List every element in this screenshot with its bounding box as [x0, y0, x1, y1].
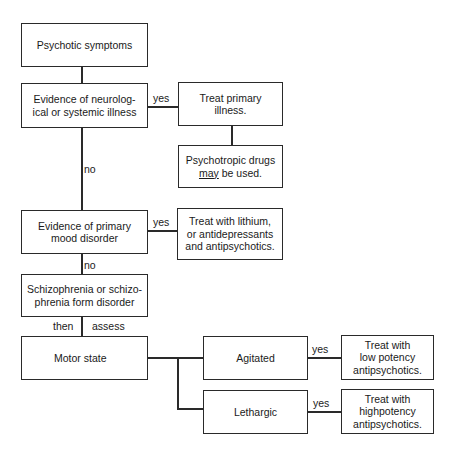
- psychotropic-line1: Psychotropic drugs: [186, 154, 275, 166]
- connector-agitated-yes: [307, 357, 341, 359]
- node-text: Lethargic: [234, 406, 277, 419]
- connector-neuro-yes: [148, 106, 178, 108]
- label-mood-yes: yes: [153, 216, 169, 228]
- label-then: then: [53, 320, 73, 332]
- node-text: Psychotic symptoms: [37, 39, 133, 52]
- label-neuro-yes: yes: [153, 92, 169, 104]
- node-text: Evidence of primary mood disorder: [38, 220, 131, 245]
- node-text: Treat with highpotency antipsychotics.: [353, 393, 422, 431]
- node-lethargic: Lethargic: [203, 390, 308, 434]
- node-neuro-illness: Evidence of neurolog- ical or systemic i…: [21, 83, 148, 128]
- node-treat-lithium: Treat with lithium, or antidepressants a…: [177, 208, 283, 260]
- node-treat-high-potency: Treat with highpotency antipsychotics.: [341, 389, 434, 434]
- connector-mood-no: [81, 253, 83, 274]
- node-schizophrenia: Schizophrenia or schizo- phrenia form di…: [21, 274, 148, 317]
- node-mood-disorder: Evidence of primary mood disorder: [21, 210, 148, 254]
- node-text: Agitated: [236, 352, 275, 365]
- flowchart: yes no yes no then assess yes yes Psycho…: [0, 0, 453, 454]
- node-text: Evidence of neurolog- ical or systemic i…: [33, 93, 137, 118]
- connector-motor-branch: [147, 357, 203, 359]
- node-motor-state: Motor state: [21, 336, 148, 380]
- node-agitated: Agitated: [203, 336, 308, 380]
- node-text: Psychotropic drugsmay be used.: [186, 154, 275, 179]
- node-text: Motor state: [54, 352, 107, 365]
- node-text: Treat with lithium, or antidepressants a…: [185, 215, 274, 253]
- label-assess: assess: [92, 320, 125, 332]
- node-text: Schizophrenia or schizo- phrenia form di…: [27, 283, 142, 308]
- label-lethargic-yes: yes: [313, 397, 329, 409]
- label-mood-no: no: [84, 259, 96, 271]
- node-treat-low-potency: Treat with low potency antipsychotics.: [341, 335, 434, 380]
- connector-to-lethargic: [177, 408, 203, 410]
- node-text: Treat with low potency antipsychotics.: [353, 339, 422, 377]
- node-psychotropic: Psychotropic drugsmay be used.: [178, 145, 283, 188]
- connector-mood-yes: [148, 230, 177, 232]
- emphasis-may: may: [199, 167, 219, 179]
- label-agitated-yes: yes: [312, 343, 328, 355]
- connector-lethargic-yes: [307, 411, 341, 413]
- connector-neuro-no: [81, 127, 83, 210]
- connector-symptoms-to-neuro: [81, 66, 83, 83]
- connector-branch-vertical: [177, 357, 179, 408]
- label-neuro-no: no: [84, 163, 96, 175]
- psychotropic-line2: be used.: [219, 167, 262, 179]
- connector-schizo-to-motor: [81, 316, 83, 336]
- node-text: Treat primary illness.: [199, 92, 261, 117]
- node-psychotic-symptoms: Psychotic symptoms: [21, 23, 148, 67]
- node-treat-primary: Treat primary illness.: [178, 82, 283, 126]
- connector-treat-to-psychotropic: [231, 125, 233, 145]
